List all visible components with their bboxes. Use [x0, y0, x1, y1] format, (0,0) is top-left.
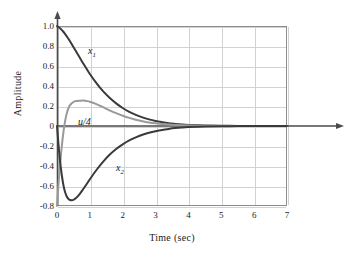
arrow-up-icon [54, 11, 60, 19]
gridline-vertical [58, 27, 59, 205]
y-tick-label: -0.4 [40, 162, 54, 171]
gridline-horizontal [58, 207, 286, 208]
x-tick-label: 3 [141, 211, 171, 220]
y-tick-label: 0.4 [43, 82, 54, 91]
x-tick-label: 5 [206, 211, 236, 220]
y-axis-label: Amplitude [12, 49, 23, 139]
gridline-horizontal [58, 187, 286, 188]
x-tick-label: 4 [173, 211, 203, 220]
curve-annotation-x1: x1 [88, 46, 96, 60]
gridline-vertical [124, 27, 125, 205]
gridline-horizontal [58, 107, 286, 108]
gridline-vertical [255, 27, 256, 205]
gridline-horizontal [58, 127, 286, 128]
x-tick-label: 7 [272, 211, 302, 220]
x-axis-label: Time (sec) [57, 232, 287, 243]
x-axis-ticks: 01234567 [57, 211, 287, 223]
y-tick-label: -0.6 [40, 182, 54, 191]
y-tick-label: -0.2 [40, 142, 54, 151]
y-tick-label: 0.6 [43, 62, 54, 71]
y-tick-label: 0 [50, 122, 55, 131]
gridline-vertical [288, 27, 289, 205]
x-tick-label: 1 [75, 211, 105, 220]
gridline-horizontal [58, 147, 286, 148]
y-tick-label: -0.8 [40, 202, 54, 211]
y-tick-label: 1.0 [43, 22, 54, 31]
y-axis-ticks: 1.00.80.60.40.20-0.2-0.4-0.6-0.8 [22, 26, 54, 206]
gridline-horizontal [58, 87, 286, 88]
gridline-vertical [189, 27, 190, 205]
y-tick-label: 0.2 [43, 102, 54, 111]
x-tick-label: 6 [239, 211, 269, 220]
y-tick-label: 0.8 [43, 42, 54, 51]
figure-container: 1.00.80.60.40.20-0.2-0.4-0.6-0.8 0123456… [0, 0, 359, 259]
curve-annotation-u4: u/4 [78, 117, 91, 127]
x-tick-label: 0 [42, 211, 72, 220]
arrow-right-icon [336, 123, 344, 129]
gridline-horizontal [58, 67, 286, 68]
gridline-vertical [222, 27, 223, 205]
gridline-vertical [157, 27, 158, 205]
x-tick-label: 2 [108, 211, 138, 220]
gridline-horizontal [58, 27, 286, 28]
gridline-horizontal [58, 167, 286, 168]
curve-annotation-x2: x2 [116, 163, 124, 177]
